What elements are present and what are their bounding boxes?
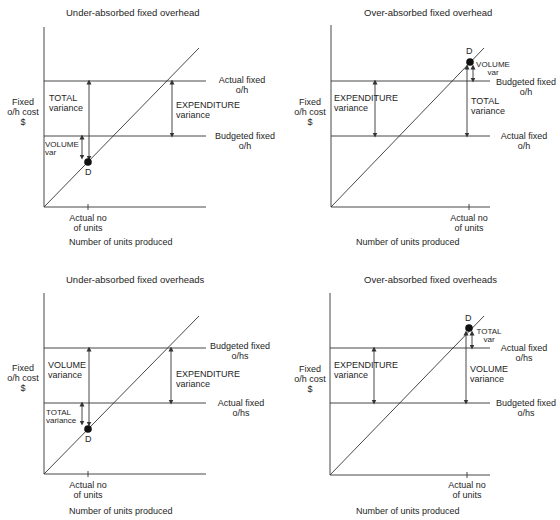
line-label-text: Budgeted fixed <box>491 398 560 408</box>
y-axis-label-line: o/h cost <box>6 107 40 117</box>
variance-label-text: EXPENDITURE <box>176 100 240 110</box>
point-d-label: D <box>85 167 92 177</box>
line-label-text: o/h <box>494 141 554 151</box>
line-label-text: Actual fixed <box>494 131 554 141</box>
tick-label-text: of units <box>442 490 492 500</box>
y-axis-label-line: Fixed <box>290 364 330 374</box>
actual-fixed-label: Actual fixed o/h <box>494 131 554 151</box>
expenditure-variance-label: EXPENDITURE variance <box>334 360 398 380</box>
tick-label-text: of units <box>63 223 113 233</box>
tick-label-text: of units <box>444 223 494 233</box>
line-label-text: o/h <box>210 141 280 151</box>
total-variance-label: TOTAL variance <box>49 93 83 113</box>
tick-label: Actual no of units <box>442 480 492 500</box>
total-variance-label: TOTAL variance <box>471 96 505 116</box>
variance-label-text: VOLUME <box>470 364 508 374</box>
line-label-text: o/hs <box>204 351 276 361</box>
tick-label-text: of units <box>63 490 113 500</box>
line-label-text: Budgeted fixed <box>491 77 560 87</box>
budgeted-fixed-label: Budgeted fixed o/h <box>210 131 280 151</box>
y-axis-label-line: Fixed <box>6 363 40 373</box>
variance-label-text: variance <box>470 374 508 384</box>
variance-label-text: TOTAL <box>471 96 505 106</box>
actual-fixed-label: Actual fixed o/h <box>212 75 272 95</box>
absorbed-cost-line <box>44 316 199 474</box>
y-axis-label: Fixed o/h cost $ <box>290 364 330 394</box>
variance-label-text: variance <box>334 103 398 113</box>
line-label-text: o/hs <box>210 408 272 418</box>
point-d-label: D <box>85 434 92 444</box>
absorbed-cost-line <box>44 48 199 207</box>
point-d <box>84 158 92 166</box>
tick-label-text: Actual no <box>444 213 494 223</box>
variance-label-text: variance <box>334 370 398 380</box>
variance-label-text: var <box>45 149 79 157</box>
volume-variance-label: VOLUME var <box>476 61 510 77</box>
tick-label: Actual no of units <box>63 213 113 233</box>
variance-label-text: EXPENDITURE <box>176 369 240 379</box>
variance-label-text: variance <box>176 379 240 389</box>
point-d <box>466 58 474 66</box>
line-label-text: Actual fixed <box>210 398 272 408</box>
x-axis-label: Number of units produced <box>356 237 460 247</box>
actual-fixed-label: Actual fixed o/hs <box>494 343 554 363</box>
y-axis-label-line: o/h cost <box>290 374 330 384</box>
expenditure-variance-label: EXPENDITURE variance <box>176 369 240 389</box>
tick-label-text: Actual no <box>442 480 492 490</box>
variance-label-text: var <box>475 336 503 344</box>
point-d <box>465 324 473 332</box>
variance-label-text: EXPENDITURE <box>334 360 398 370</box>
line-label-text: o/hs <box>491 408 560 418</box>
y-axis-label-line: $ <box>290 384 330 394</box>
point-d <box>84 425 92 433</box>
budgeted-fixed-label: Budgeted fixed o/hs <box>204 341 276 361</box>
total-variance-label: TOTAL variance <box>46 409 76 425</box>
volume-variance-label: VOLUME variance <box>470 364 508 384</box>
absorbed-cost-line <box>331 48 484 207</box>
variance-label-text: EXPENDITURE <box>334 93 398 103</box>
x-axis-label: Number of units produced <box>69 237 173 247</box>
variance-label-text: var <box>476 69 510 77</box>
x-axis-label: Number of units produced <box>356 506 460 516</box>
line-label-text: Budgeted fixed <box>204 341 276 351</box>
total-variance-label: TOTAL var <box>475 328 503 344</box>
x-axis-label: Number of units produced <box>69 506 173 516</box>
variance-label-text: VOLUME <box>48 360 86 370</box>
volume-variance-label: VOLUME var <box>45 141 79 157</box>
y-axis-label: Fixed o/h cost $ <box>6 363 40 393</box>
variance-label-text: variance <box>48 370 86 380</box>
y-axis-label-line: Fixed <box>290 97 330 107</box>
diagram-title: Under-absorbed fixed overheads <box>66 275 204 285</box>
y-axis-label-line: $ <box>6 383 40 393</box>
y-axis-label-line: o/h cost <box>290 107 330 117</box>
actual-fixed-label: Actual fixed o/hs <box>210 398 272 418</box>
diagram-canvas <box>0 0 560 520</box>
budgeted-fixed-label: Budgeted fixed o/h <box>491 77 560 97</box>
diagram-title: Under-absorbed fixed overhead <box>66 8 200 18</box>
variance-label-text: TOTAL <box>49 93 83 103</box>
budgeted-fixed-label: Budgeted fixed o/hs <box>491 398 560 418</box>
tick-label-text: Actual no <box>63 480 113 490</box>
variance-label-text: variance <box>471 106 505 116</box>
y-axis-label-line: $ <box>290 117 330 127</box>
line-label-text: Actual fixed <box>494 343 554 353</box>
y-axis-label: Fixed o/h cost $ <box>290 97 330 127</box>
volume-variance-label: VOLUME variance <box>48 360 86 380</box>
y-axis-label-line: Fixed <box>6 97 40 107</box>
line-label-text: o/h <box>212 85 272 95</box>
y-axis-label-line: $ <box>6 117 40 127</box>
tick-label: Actual no of units <box>63 480 113 500</box>
line-label-text: Actual fixed <box>212 75 272 85</box>
absorbed-cost-line <box>330 316 484 475</box>
diagram-title: Over-absorbed fixed overhead <box>364 8 492 18</box>
expenditure-variance-label: EXPENDITURE variance <box>176 100 240 120</box>
variance-label-text: variance <box>49 103 83 113</box>
point-d-label: D <box>465 313 472 323</box>
y-axis-label: Fixed o/h cost $ <box>6 97 40 127</box>
diagram-title: Over-absorbed fixed overheads <box>364 275 497 285</box>
y-axis-label-line: o/h cost <box>6 373 40 383</box>
tick-label: Actual no of units <box>444 213 494 233</box>
variance-label-text: variance <box>46 417 76 425</box>
line-label-text: Budgeted fixed <box>210 131 280 141</box>
tick-label-text: Actual no <box>63 213 113 223</box>
